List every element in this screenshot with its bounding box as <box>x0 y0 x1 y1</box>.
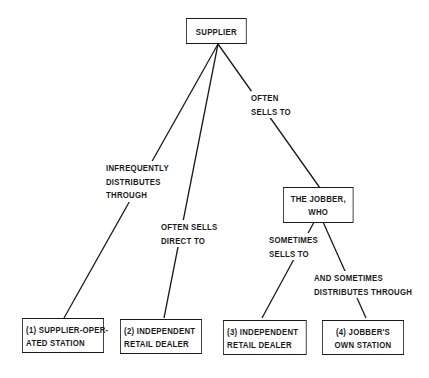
node-jobbers-own-station: (4) JOBBER'S OWN STATION <box>322 320 404 355</box>
edge-label-and-sometimes-distributes: AND SOMETIMES DISTRIBUTES THROUGH <box>314 271 412 298</box>
edge-label-often-sells-direct: OFTEN SELLS DIRECT TO <box>161 220 217 247</box>
edge-label-infrequently-distributes: INFREQUENTLY DISTRIBUTES THROUGH <box>106 161 169 202</box>
distribution-diagram: INFREQUENTLY DISTRIBUTES THROUGH OFTEN S… <box>0 0 429 378</box>
node-independent-retail-dealer-2: (2) INDEPENDENT RETAIL DEALER <box>120 319 202 354</box>
edge-label-often-sells-to: OFTEN SELLS TO <box>251 91 291 118</box>
edge-jobber-dealer3 <box>262 213 319 318</box>
node-independent-retail-dealer-3: (3) INDEPENDENT RETAIL DEALER <box>223 320 307 355</box>
edge-supplier-dealer2 <box>164 44 218 318</box>
node-jobber: THE JOBBER, WHO <box>283 187 354 223</box>
edge-label-sometimes-sells-to: SOMETIMES SELLS TO <box>269 233 318 260</box>
node-supplier-operated-station: (1) SUPPLIER-OPER- ATED STATION <box>22 318 104 353</box>
node-supplier: SUPPLIER <box>186 18 247 44</box>
edge-jobber-station4 <box>319 213 366 318</box>
